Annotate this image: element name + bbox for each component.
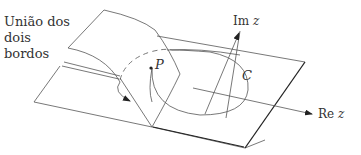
real-axis-prefix: Re	[318, 107, 334, 121]
imag-axis-label: Im z	[233, 14, 259, 28]
point-p-label: P	[155, 58, 164, 72]
riemann-surface-diagram: União dos dois bordos P C Im z Re z	[0, 0, 361, 155]
caption-line-1: União dos	[4, 14, 70, 30]
lower-sheet	[34, 66, 265, 148]
imag-axis-var: z	[253, 14, 259, 28]
contour-c	[152, 50, 248, 115]
real-axis-label: Re z	[318, 107, 344, 121]
caption-line-3: bordos	[4, 46, 70, 62]
imag-axis	[226, 31, 240, 118]
upper-sheet	[62, 10, 305, 148]
real-axis-var: z	[338, 107, 344, 121]
contour-c-label: C	[242, 69, 252, 83]
fold-arrow	[118, 82, 130, 101]
point-p-dot	[149, 66, 152, 69]
fold-caption: União dos dois bordos	[4, 14, 70, 62]
imag-axis-prefix: Im	[233, 14, 249, 28]
caption-line-2: dois	[4, 30, 70, 46]
hidden-contour-path	[120, 49, 172, 80]
